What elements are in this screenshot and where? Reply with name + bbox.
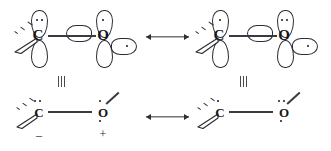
formal-charge-oxygen: + [97, 128, 109, 140]
atom-label-carbon: C [212, 28, 226, 43]
orbital-structure-left: C O [0, 0, 150, 72]
oxygen-line-bond [286, 92, 300, 104]
equivalence-symbol-right [240, 76, 247, 87]
sigma-bond [48, 111, 92, 113]
atom-label-carbon: C [33, 106, 45, 119]
sigma-bond [48, 35, 96, 37]
atom-label-oxygen: O [97, 106, 109, 119]
atom-label-carbon: C [31, 28, 45, 43]
electron-dot [280, 120, 282, 122]
oxygen-line-bond [105, 92, 119, 104]
oxygen-p-orbital-left [66, 25, 92, 42]
atom-label-oxygen: O [96, 28, 110, 43]
sigma-bond [229, 35, 277, 37]
electron-dot [283, 100, 285, 102]
formal-charge-carbon: – [33, 129, 45, 141]
electron-dot [217, 100, 219, 102]
sigma-bond [229, 111, 273, 113]
equivalence-symbol-left [58, 76, 65, 87]
lewis-structure-left: C O – + [0, 92, 150, 151]
electron-dot [278, 100, 280, 102]
electron-dot [39, 100, 41, 102]
orbital-structure-right: C O [181, 0, 331, 72]
atom-label-oxygen: O [277, 28, 291, 43]
resonance-diagram: C O C O [0, 0, 331, 151]
electron-dot [99, 120, 101, 122]
atom-label-carbon: C [214, 106, 226, 119]
lewis-structure-right: C O [181, 92, 331, 151]
atom-label-oxygen: O [278, 106, 290, 119]
electron-dot [99, 100, 101, 102]
oxygen-p-orbital-right [292, 38, 318, 55]
oxygen-p-orbital-left [247, 25, 273, 42]
oxygen-p-orbital-right [111, 38, 137, 55]
